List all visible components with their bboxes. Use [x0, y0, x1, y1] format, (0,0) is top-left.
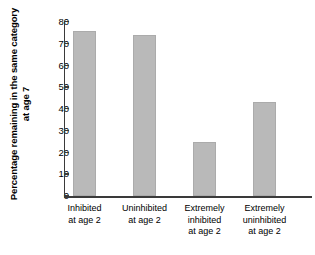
- plot-area: [65, 22, 312, 196]
- bar-chart: Percentage remaining in the same categor…: [0, 0, 315, 255]
- bar: [253, 102, 276, 196]
- x-axis-label: Uninhibitedat age 2: [114, 203, 176, 226]
- x-axis-label: Extremelyuninhibitedat age 2: [234, 203, 296, 238]
- x-axis-label: Extremelyinhibitedat age 2: [174, 203, 236, 238]
- bar: [193, 142, 216, 196]
- bar: [73, 31, 96, 196]
- x-axis-line: [64, 196, 312, 198]
- x-axis-label: Inhibitedat age 2: [54, 203, 116, 226]
- bar: [133, 35, 156, 196]
